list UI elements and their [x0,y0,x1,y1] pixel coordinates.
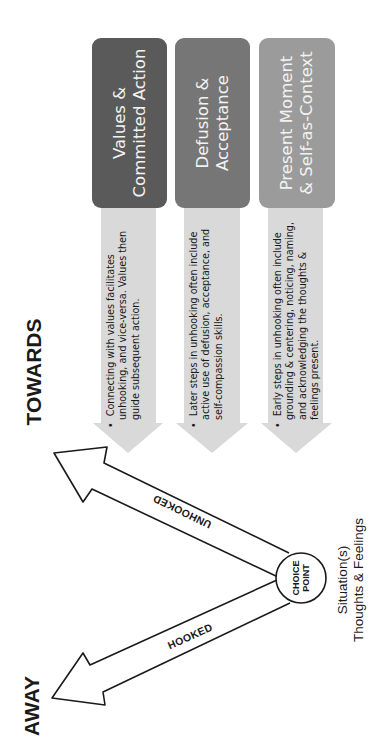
towards-label: TOWARDS [22,319,46,426]
situation-text: Situation(s) [335,546,350,614]
towards-text: TOWARDS [22,319,45,426]
choice-point-label: CHOICE POINT [292,560,311,595]
away-label: AWAY [20,676,44,736]
choice-text: CHOICE [291,560,301,595]
away-text: AWAY [20,676,43,736]
thoughts-feelings-text: Thoughts & Feelings [351,518,366,642]
situation-label: Situation(s) Thoughts & Feelings [335,518,367,642]
point-text: POINT [300,564,310,592]
